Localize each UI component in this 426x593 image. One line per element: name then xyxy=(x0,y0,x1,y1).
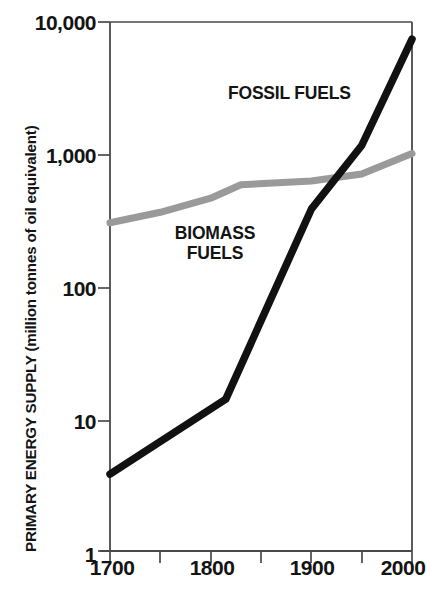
x-tick-label-2000: 2000 xyxy=(381,556,426,580)
annotation-biomass-fuels: BIOMASS FUELS xyxy=(150,224,280,263)
energy-supply-line-chart: PRIMARY ENERGY SUPPLY (million tonnes of… xyxy=(0,0,426,593)
x-axis-tick-labels: 1700 1800 1900 2000 xyxy=(0,556,426,593)
x-tick-label-1800: 1800 xyxy=(190,556,235,580)
annotation-fossil-fuels: FOSSIL FUELS xyxy=(228,84,351,104)
x-tick-label-1900: 1900 xyxy=(290,556,335,580)
y-axis-tick-labels: 10,000 1,000 100 10 1 xyxy=(12,0,96,593)
annotation-biomass-line1: BIOMASS xyxy=(150,224,280,244)
annotation-biomass-line2: FUELS xyxy=(150,244,280,264)
y-tick-label-100: 100 xyxy=(62,278,96,299)
x-tick-label-1700: 1700 xyxy=(90,556,135,580)
y-tick-label-1000: 1,000 xyxy=(46,145,96,166)
y-tick-label-10: 10 xyxy=(74,411,96,432)
series-line-biomass-fuels xyxy=(110,154,412,223)
y-tick-label-10000: 10,000 xyxy=(35,12,96,33)
